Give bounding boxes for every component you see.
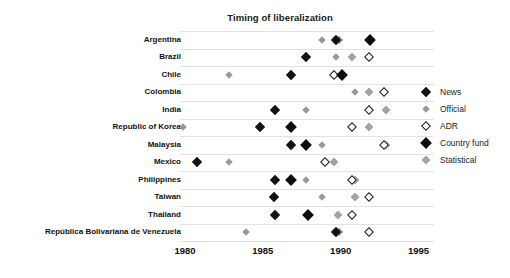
legend-label: Official: [440, 101, 466, 118]
category-label: Chile: [161, 70, 181, 80]
gridline: [180, 241, 434, 242]
gridline: [180, 206, 434, 207]
data-point-country-fund: [302, 209, 313, 220]
data-point-adr: [364, 192, 374, 202]
legend-marker-icon: [422, 156, 430, 164]
data-point-official: [303, 176, 310, 183]
data-point-adr: [320, 157, 330, 167]
legend-label: Statistical: [440, 152, 476, 169]
gridline: [180, 31, 434, 32]
category-label: Taiwan: [154, 192, 181, 202]
data-point-statistical: [364, 123, 372, 131]
legend-marker-icon: [421, 87, 431, 97]
data-point-news: [270, 175, 280, 185]
data-point-news: [270, 105, 280, 115]
gridline: [180, 66, 434, 67]
data-point-country-fund: [301, 139, 312, 150]
data-point-statistical: [333, 211, 341, 219]
legend-marker-icon: [421, 121, 431, 131]
legend-marker-icon: [422, 105, 429, 112]
chart-container: Timing of liberalization ArgentinaBrazil…: [0, 0, 510, 278]
gridline: [180, 189, 434, 190]
x-axis-tick-label: 1985: [252, 245, 273, 256]
data-point-official: [318, 141, 325, 148]
data-point-adr: [379, 140, 389, 150]
gridline: [180, 154, 434, 155]
legend-item[interactable]: Statistical: [421, 152, 510, 169]
category-label: República Bolivariana de Venezuela: [45, 227, 181, 237]
data-point-statistical: [330, 158, 338, 166]
data-point-news: [301, 52, 311, 62]
gridline: [180, 171, 434, 172]
data-point-country-fund: [365, 34, 376, 45]
legend-item[interactable]: ADR: [421, 118, 510, 135]
data-point-adr: [364, 227, 374, 237]
data-point-news: [193, 157, 203, 167]
data-point-official: [351, 89, 358, 96]
chart-title: Timing of liberalization: [120, 12, 440, 23]
legend-marker-icon: [420, 137, 431, 148]
gridline: [180, 119, 434, 120]
data-point-official: [303, 106, 310, 113]
category-label: Argentina: [144, 35, 181, 45]
gridline: [180, 136, 434, 137]
data-point-country-fund: [285, 174, 296, 185]
legend-label: Country fund: [440, 135, 489, 152]
data-point-official: [318, 194, 325, 201]
legend-label: ADR: [440, 118, 458, 135]
legend-item[interactable]: News: [421, 84, 510, 101]
gridline: [180, 224, 434, 225]
data-point-adr: [379, 87, 389, 97]
data-point-official: [242, 229, 249, 236]
x-axis: 1980198519901995: [120, 245, 480, 261]
data-point-news: [255, 122, 265, 132]
legend-label: News: [440, 84, 461, 101]
x-axis-tick-label: 1980: [174, 245, 195, 256]
data-point-statistical: [364, 88, 372, 96]
data-point-country-fund: [285, 122, 296, 133]
category-label: Malaysia: [148, 140, 181, 150]
category-label: Thailand: [148, 210, 181, 220]
data-point-statistical: [347, 53, 355, 61]
data-point-news: [270, 210, 280, 220]
data-point-adr: [347, 210, 357, 220]
x-axis-tick-label: 1990: [330, 245, 351, 256]
data-point-news: [286, 70, 296, 80]
category-label: Republic of Korea: [113, 122, 181, 132]
category-label: Brazil: [159, 52, 181, 62]
chart-legend: NewsOfficialADRCountry fundStatistical: [421, 84, 510, 169]
gridline: [180, 49, 434, 50]
data-point-statistical: [350, 193, 358, 201]
data-point-adr: [347, 122, 357, 132]
data-point-news: [286, 140, 296, 150]
data-point-statistical: [382, 106, 390, 114]
category-label: India: [162, 105, 181, 115]
legend-item[interactable]: Official: [421, 101, 510, 118]
data-point-news: [269, 192, 279, 202]
data-point-adr: [364, 52, 374, 62]
x-axis-tick-label: 1995: [408, 245, 429, 256]
gridline: [180, 101, 434, 102]
data-point-adr: [364, 105, 374, 115]
category-label: Colombia: [145, 87, 181, 97]
data-point-official: [225, 159, 232, 166]
data-point-official: [318, 36, 325, 43]
category-label: Mexico: [154, 157, 181, 167]
gridline: [180, 84, 434, 85]
data-point-country-fund: [337, 69, 348, 80]
category-label: Philippines: [138, 175, 181, 185]
plot-area: [185, 31, 434, 241]
data-point-official: [225, 71, 232, 78]
category-axis-labels: ArgentinaBrazilChileColombiaIndiaRepubli…: [0, 31, 181, 241]
legend-item[interactable]: Country fund: [421, 135, 510, 152]
data-point-official: [332, 54, 339, 61]
